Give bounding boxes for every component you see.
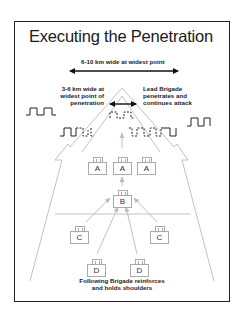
enemy-line-right-inner bbox=[129, 128, 176, 136]
unit-symbol-icon bbox=[155, 226, 165, 232]
unit-label: A bbox=[95, 164, 100, 173]
unit-label: B bbox=[120, 197, 125, 206]
unit-label: A bbox=[144, 164, 149, 173]
unit-b: B bbox=[113, 195, 132, 208]
unit-symbol-icon bbox=[118, 190, 128, 196]
unit-label: C bbox=[77, 233, 83, 242]
unit-label: D bbox=[137, 266, 143, 275]
enemy-line-right-outer bbox=[187, 118, 210, 126]
unit-symbol-icon bbox=[118, 157, 128, 163]
enemy-line-left-inner bbox=[60, 128, 94, 136]
unit-label: A bbox=[120, 164, 125, 173]
enemy-line-left-outer bbox=[26, 108, 56, 115]
unit-symbol-icon bbox=[92, 259, 102, 265]
unit-c-right: C bbox=[150, 231, 169, 244]
breach-enemy-line bbox=[110, 112, 135, 118]
unit-a-left: A bbox=[88, 162, 107, 175]
unit-symbol-icon bbox=[75, 226, 85, 232]
unit-c-left: C bbox=[70, 231, 89, 244]
unit-label: C bbox=[157, 233, 163, 242]
following-brigade-line-1: Following Brigade reinforces bbox=[62, 277, 182, 284]
unit-symbol-icon bbox=[93, 157, 103, 163]
unit-a-center: A bbox=[113, 162, 132, 175]
unit-label: D bbox=[94, 266, 100, 275]
unit-a-right: A bbox=[137, 162, 156, 175]
unit-symbol-icon bbox=[135, 259, 145, 265]
unit-d-left: D bbox=[87, 264, 106, 277]
following-brigade-line-2: and holds shoulders bbox=[62, 284, 182, 291]
unit-d-right: D bbox=[130, 264, 149, 277]
following-brigade-label: Following Brigade reinforces and holds s… bbox=[62, 277, 182, 291]
unit-symbol-icon bbox=[142, 157, 152, 163]
